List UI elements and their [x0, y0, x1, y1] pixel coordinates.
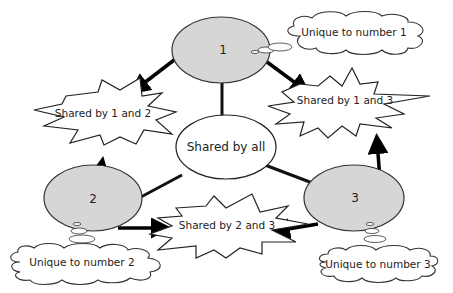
thought-dot — [364, 236, 386, 243]
burst-shared-1-2[interactable]: Shared by 1 and 2 — [34, 78, 176, 145]
burst-label-1-3: Shared by 1 and 3 — [297, 94, 393, 106]
center-label: Shared by all — [187, 140, 266, 154]
diagram-canvas: Shared by 1 and 2 Shared by 1 and 3 Shar… — [0, 0, 453, 293]
cloud-unique-1[interactable]: Unique to number 1 — [251, 12, 423, 55]
burst-shared-2-3[interactable]: Shared by 2 and 3 — [150, 194, 308, 258]
center-shared-by-all[interactable]: Shared by all — [176, 115, 276, 179]
circle-1[interactable]: 1 — [172, 17, 270, 83]
cloud-unique-3[interactable]: Unique to number 3 — [319, 223, 437, 283]
arrow-1-to-s12 — [135, 57, 178, 90]
thought-dot — [366, 223, 374, 226]
circle-2-label: 2 — [89, 192, 97, 206]
connector-3-center — [265, 165, 315, 184]
burst-label-2-3: Shared by 2 and 3 — [179, 219, 275, 231]
thought-dot — [268, 43, 292, 51]
cloud-label-1: Unique to number 1 — [301, 26, 406, 38]
circle-3[interactable]: 3 — [304, 165, 404, 231]
circle-1-label: 1 — [219, 43, 227, 57]
burst-label-1-2: Shared by 1 and 2 — [55, 107, 151, 119]
thought-dot — [71, 228, 87, 234]
circle-3-label: 3 — [351, 191, 359, 205]
thought-dot — [365, 229, 379, 234]
thought-dot — [69, 235, 95, 243]
cloud-unique-2[interactable]: Unique to number 2 — [11, 223, 161, 285]
circle-2[interactable]: 2 — [44, 165, 142, 231]
thought-dot — [73, 223, 81, 226]
cloud-label-3: Unique to number 3 — [325, 258, 430, 270]
cloud-label-2: Unique to number 2 — [29, 256, 134, 268]
